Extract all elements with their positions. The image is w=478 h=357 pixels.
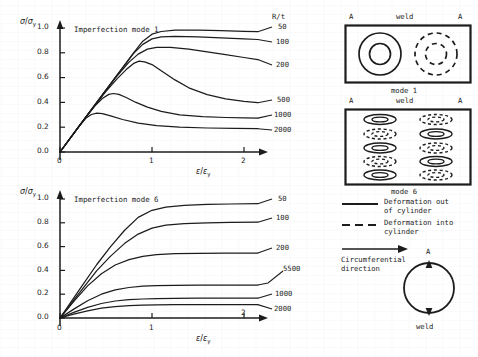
series-label-lower-50: 50 bbox=[278, 195, 287, 202]
series-label-upper-2000: 2000 bbox=[274, 126, 291, 133]
xlabel-denominator-sub-lower: y bbox=[207, 338, 210, 344]
curve6-rt-5500 bbox=[60, 285, 258, 318]
curve6-rt-1000 bbox=[60, 298, 258, 318]
ytick-0.4-upper: 0.4 bbox=[37, 98, 49, 105]
leader6-rt-50 bbox=[258, 199, 272, 204]
legend-dashed-label: Deformation into cylinder bbox=[384, 218, 453, 236]
curve-rt-50 bbox=[60, 30, 258, 152]
mode6-cell-solid-l1 bbox=[364, 115, 396, 125]
ytick-0.0-upper: 0.0 bbox=[37, 147, 49, 154]
curve-rt-1000 bbox=[60, 94, 258, 153]
ytick-0.0-lower: 0.0 bbox=[37, 313, 49, 320]
chart-mode-6-curves bbox=[60, 204, 258, 318]
leader6-rt-5500 bbox=[258, 271, 283, 285]
chart-mode-1-curves bbox=[60, 30, 258, 152]
ytick-1.0-lower: 1.0 bbox=[37, 194, 49, 201]
chart-mode-6 bbox=[0, 178, 330, 357]
leader-rt-2000 bbox=[258, 129, 272, 130]
chart-mode-1-xlabel: ε/εy bbox=[196, 168, 211, 177]
circumference-circle bbox=[398, 255, 460, 321]
y-axis-arrowhead-lower bbox=[57, 190, 64, 199]
ylabel-numerator-lower: σ bbox=[20, 187, 25, 196]
curve6-rt-100 bbox=[60, 222, 258, 318]
curve-rt-500 bbox=[60, 61, 258, 152]
circumference-circle-svg bbox=[398, 255, 460, 321]
circumferential-arrow bbox=[340, 243, 412, 255]
mode6-cell-solid-l3 bbox=[364, 143, 396, 153]
ylabel-denominator-sub: y bbox=[33, 21, 36, 27]
legend-solid-swatch bbox=[340, 199, 380, 209]
chart-mode-6-svg bbox=[0, 178, 330, 357]
mode1-corner-left-label: A bbox=[349, 13, 353, 20]
mode6-diagram-svg bbox=[344, 108, 472, 186]
chart-mode-6-title: Imperfection mode 6 bbox=[74, 196, 159, 203]
leader6-rt-200 bbox=[258, 248, 272, 253]
circle-bottom-marker-label: weld bbox=[416, 323, 433, 330]
mode1-caption: mode 1 bbox=[391, 87, 417, 94]
ytick-1.0-upper: 1.0 bbox=[37, 23, 49, 30]
xtick-0-lower: 0 bbox=[57, 324, 62, 331]
ytick-0.8-lower: 0.8 bbox=[37, 218, 49, 225]
series-label-lower-1000: 1000 bbox=[275, 290, 292, 297]
rt-header: R/t bbox=[272, 13, 285, 20]
figure-root: Imperfection mode 1 σ/σy 1.0 0.8 0.6 0.4… bbox=[0, 0, 478, 357]
mode1-solid-rings bbox=[359, 33, 401, 75]
mode1-weld-label: weld bbox=[396, 13, 413, 20]
series-label-lower-2000: 2000 bbox=[274, 305, 291, 312]
chart-mode-6-ylabel: σ/σy bbox=[20, 188, 36, 197]
xlabel-numerator-lower: ε bbox=[196, 334, 200, 343]
series-label-upper-1000: 1000 bbox=[274, 111, 291, 118]
x-axis-arrowhead-lower bbox=[259, 315, 268, 322]
cylinder-cross-section-circle bbox=[404, 263, 454, 313]
leader6-rt-100 bbox=[258, 218, 272, 222]
mode6-cell-dashed-r3 bbox=[420, 143, 452, 153]
arrow-head-icon bbox=[398, 245, 408, 253]
series-label-upper-200: 200 bbox=[276, 61, 289, 68]
series-label-upper-50: 50 bbox=[278, 23, 287, 30]
xtick-1-upper: 1 bbox=[149, 157, 154, 164]
leader6-rt-1000 bbox=[258, 294, 272, 298]
mode6-right-column bbox=[420, 115, 452, 181]
mode6-cell-dashed-r1 bbox=[420, 115, 452, 125]
curve6-rt-50 bbox=[60, 204, 258, 318]
mode6-cell-dashed-l2 bbox=[364, 129, 396, 139]
mode6-cell-dashed-l4 bbox=[364, 157, 396, 167]
mode6-left-column bbox=[364, 115, 396, 181]
mode6-cell-solid-r2 bbox=[420, 129, 452, 139]
mode1-corner-right-label: A bbox=[458, 13, 462, 20]
ytick-0.8-upper: 0.8 bbox=[37, 48, 49, 55]
chart-mode-1-ylabel: σ/σy bbox=[20, 18, 36, 27]
ylabel-denominator-sub-lower: y bbox=[33, 191, 36, 197]
ytick-0.6-lower: 0.6 bbox=[37, 242, 49, 249]
mode6-cell-solid-l5 bbox=[364, 170, 396, 180]
series-label-lower-100: 100 bbox=[276, 214, 289, 221]
legend-dashed-swatch bbox=[340, 220, 380, 230]
x-axis-arrowhead bbox=[259, 149, 268, 156]
circumferential-label: Circumferential direction bbox=[341, 255, 406, 273]
ytick-0.2-lower: 0.2 bbox=[37, 289, 49, 296]
curve-rt-100 bbox=[60, 36, 258, 152]
mode6-caption: mode 6 bbox=[391, 188, 417, 195]
ytick-0.4-lower: 0.4 bbox=[37, 266, 49, 273]
leader-rt-200 bbox=[258, 60, 272, 65]
leader-rt-100 bbox=[258, 40, 272, 43]
mode1-diagram-svg bbox=[344, 24, 472, 84]
mode6-cell-solid-r4 bbox=[420, 157, 452, 167]
circumferential-arrow-svg bbox=[340, 243, 412, 255]
leader-rt-500 bbox=[258, 100, 272, 103]
chart-mode-6-xlabel: ε/εy bbox=[196, 335, 211, 344]
xtick-1-lower: 1 bbox=[149, 324, 154, 331]
ylabel-numerator: σ bbox=[20, 17, 25, 26]
xtick-0-upper: 0 bbox=[57, 157, 62, 164]
ytick-0.6-upper: 0.6 bbox=[37, 73, 49, 80]
mode6-corner-right-label: A bbox=[458, 97, 462, 104]
mode1-panel-border bbox=[346, 26, 471, 83]
xlabel-numerator: ε bbox=[196, 167, 200, 176]
series-label-upper-500: 500 bbox=[277, 96, 290, 103]
legend-solid-label: Deformation out of cylinder bbox=[384, 197, 449, 215]
ytick-0.2-upper: 0.2 bbox=[37, 123, 49, 130]
xtick-2-upper: 2 bbox=[241, 157, 246, 164]
series-label-upper-100: 100 bbox=[276, 38, 289, 45]
mode1-dashed-rings bbox=[415, 33, 457, 75]
leader6-rt-2000 bbox=[258, 305, 272, 309]
